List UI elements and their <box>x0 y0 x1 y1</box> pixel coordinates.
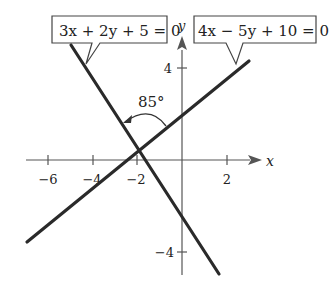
x-tick-label: 2 <box>223 172 231 187</box>
y-tick-label: −4 <box>155 245 174 260</box>
line-eq2 <box>27 61 249 242</box>
x-tick-label: −6 <box>38 172 57 187</box>
y-tick-label: 4 <box>164 61 172 76</box>
x-axis-label: x <box>266 153 274 169</box>
chart-canvas: x −6 −4 −2 2 y 4 −4 85° 3x + 2y + 5 = 0 … <box>0 0 332 293</box>
callout-eq2: 4x − 5y + 10 = 0 <box>194 16 329 64</box>
equation-label-1: 3x + 2y + 5 = 0 <box>59 22 180 40</box>
x-axis-arrow-icon <box>248 155 262 165</box>
angle-arrow-icon <box>123 115 132 123</box>
equation-label-2: 4x − 5y + 10 = 0 <box>198 22 329 40</box>
callout-eq1: 3x + 2y + 5 = 0 <box>52 16 180 64</box>
x-tick-label: −2 <box>126 172 145 187</box>
angle-label: 85° <box>138 93 165 111</box>
